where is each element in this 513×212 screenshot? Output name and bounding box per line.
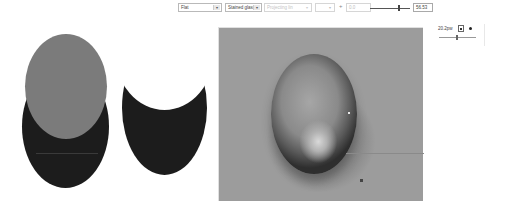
spinner-field[interactable]: ▾	[315, 3, 335, 12]
value-box-text: 56.53	[416, 5, 427, 10]
slider[interactable]	[370, 4, 410, 12]
value-box[interactable]: 56.53	[413, 3, 433, 12]
projection-select-value: Projecting lin	[267, 5, 293, 10]
material-select-value: Stained glass	[228, 5, 255, 10]
chevron-down-icon: ▾	[304, 5, 310, 10]
crescent-shape	[121, 60, 207, 176]
render-canvas[interactable]	[218, 27, 423, 201]
panel-slider[interactable]	[439, 34, 476, 42]
checkbox-icon[interactable]	[458, 25, 464, 32]
spinner-arrows-icon[interactable]: ▾	[327, 5, 333, 10]
gray-ellipse	[25, 34, 107, 139]
side-panel: 20.2pw	[436, 24, 492, 46]
plus-label: +	[339, 3, 343, 9]
panel-slider-thumb[interactable]	[456, 35, 458, 40]
chevron-down-icon: ▾	[253, 5, 260, 10]
toolbar: Flat ▾ Stained glass ▾ Projecting lin ▾ …	[0, 0, 513, 18]
glossy-oval	[271, 54, 357, 174]
shading-select-value: Flat	[181, 5, 189, 10]
panel-divider	[484, 24, 485, 46]
chevron-down-icon: ▾	[213, 5, 220, 10]
marker-dot	[348, 112, 350, 114]
text-field[interactable]: 0.0	[346, 3, 371, 12]
faint-line	[36, 153, 98, 154]
canvas-line	[346, 153, 424, 154]
dot-icon[interactable]	[469, 27, 472, 30]
slider-thumb[interactable]	[398, 5, 400, 11]
shading-select[interactable]: Flat ▾	[178, 3, 222, 12]
material-select[interactable]: Stained glass ▾	[225, 3, 262, 12]
projection-select[interactable]: Projecting lin ▾	[264, 3, 312, 12]
text-field-value: 0.0	[349, 5, 355, 10]
cursor-mark	[360, 179, 363, 182]
width-field[interactable]: 20.2pw	[438, 26, 453, 31]
slider-track	[370, 8, 410, 9]
